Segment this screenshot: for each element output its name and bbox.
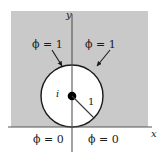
- point-i-label: i: [56, 89, 59, 99]
- boundary-label-lower-right: ϕ = 0: [88, 134, 119, 145]
- boundary-label-lower-left: ϕ = 0: [33, 134, 64, 145]
- boundary-label-upper-left: ϕ = 1: [32, 39, 63, 50]
- x-axis-label: x: [151, 129, 157, 139]
- radius-length-label: 1: [88, 97, 94, 107]
- y-axis-label: y: [66, 10, 72, 20]
- boundary-label-upper-right: ϕ = 1: [85, 39, 116, 50]
- complex-plane-diagram: ϕ = 1 ϕ = 1 ϕ = 0 ϕ = 0 y x i 1: [0, 0, 163, 161]
- diagram-canvas: [0, 0, 163, 161]
- shaded-half-plane-region: [11, 11, 148, 127]
